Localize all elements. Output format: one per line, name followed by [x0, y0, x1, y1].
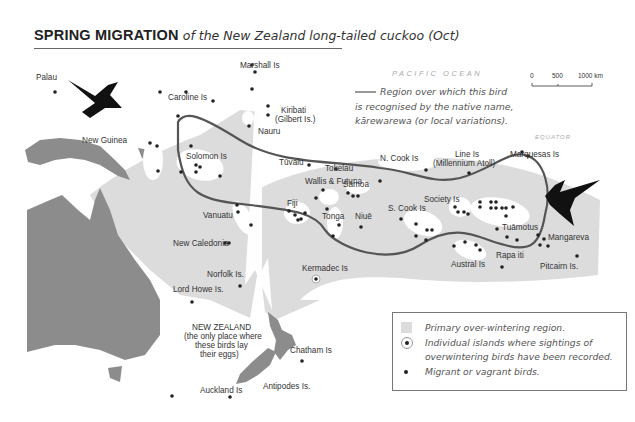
svg-text:Line Is: Line Is [455, 150, 479, 159]
svg-text:Society Is: Society Is [424, 195, 460, 204]
svg-text:Antipodes Is.: Antipodes Is. [263, 382, 310, 391]
svg-text:N. Cook Is: N. Cook Is [380, 154, 418, 163]
svg-text:Kiribati: Kiribati [281, 106, 306, 115]
svg-text:Auckland Is: Auckland Is [200, 386, 242, 395]
svg-text:Chatham Is: Chatham Is [290, 346, 332, 355]
scale-tick-500: 500 [552, 72, 563, 79]
svg-text:Marquesas Is: Marquesas Is [510, 150, 559, 159]
svg-text:Rapa iti: Rapa iti [496, 251, 524, 260]
svg-text:Palau: Palau [36, 73, 57, 82]
svg-text:these birds lay: these birds lay [195, 341, 249, 350]
svg-text:Lord Howe Is.: Lord Howe Is. [173, 285, 224, 294]
svg-text:kārewarewa (or local variation: kārewarewa (or local variations). [355, 115, 508, 126]
equator-label: EQUATOR [535, 134, 571, 140]
svg-text:Marshall Is: Marshall Is [240, 61, 280, 70]
svg-text:Austral Is: Austral Is [451, 260, 485, 269]
scale-tick-0: 0 [530, 72, 534, 79]
svg-text:Nauru: Nauru [258, 127, 281, 136]
svg-text:Fiji: Fiji [287, 199, 298, 208]
ocean-label: PACIFIC OCEAN [392, 69, 482, 78]
boundary-note: Region over which this bird is recognise… [355, 86, 513, 126]
svg-text:S. Cook Is: S. Cook Is [388, 204, 426, 213]
svg-text:New Caledonia: New Caledonia [173, 239, 229, 248]
svg-text:Tūvalu: Tūvalu [279, 158, 304, 167]
svg-text:Tonga: Tonga [322, 212, 345, 221]
svg-text:New Guinea: New Guinea [82, 136, 128, 145]
svg-text:(the only place where: (the only place where [184, 332, 262, 341]
svg-text:Region over which this bird: Region over which this bird [380, 86, 507, 97]
shaded-area-swatch [401, 322, 412, 333]
svg-text:Sāmoa: Sāmoa [343, 180, 369, 189]
svg-text:Pitcairn Is.: Pitcairn Is. [540, 262, 578, 271]
dot-icon [404, 370, 408, 374]
svg-text:(Gilbert Is.): (Gilbert Is.) [275, 115, 316, 124]
svg-text:Tokelau: Tokelau [325, 164, 354, 173]
svg-text:Kermadec Is: Kermadec Is [302, 264, 348, 273]
svg-text:Niuē: Niuē [355, 212, 372, 221]
svg-text:their eggs): their eggs) [200, 350, 239, 359]
nz-south-island [236, 348, 276, 384]
svg-text:NEW ZEALAND: NEW ZEALAND [192, 323, 251, 332]
svg-text:Mangareva: Mangareva [548, 233, 589, 242]
svg-text:(Millennium Atoll): (Millennium Atoll) [433, 159, 496, 168]
scale-bar: 0 500 1000 km [530, 72, 603, 86]
ringed-dot-icon [401, 337, 413, 349]
cuckoo-silhouette-left [68, 80, 122, 118]
svg-text:Norfolk Is.: Norfolk Is. [207, 270, 244, 279]
svg-text:Tuāmotus: Tuāmotus [502, 223, 538, 232]
svg-text:Caroline Is: Caroline Is [168, 93, 207, 102]
map-legend: Primary over-wintering region. Individua… [392, 312, 627, 391]
svg-text:Solomon Is: Solomon Is [186, 152, 227, 161]
svg-text:is recognised by the native na: is recognised by the native name, [355, 101, 513, 112]
svg-text:Vanuatu: Vanuatu [203, 211, 233, 220]
tasmania-landmass [108, 366, 122, 382]
scale-tick-1000: 1000 km [578, 72, 603, 79]
